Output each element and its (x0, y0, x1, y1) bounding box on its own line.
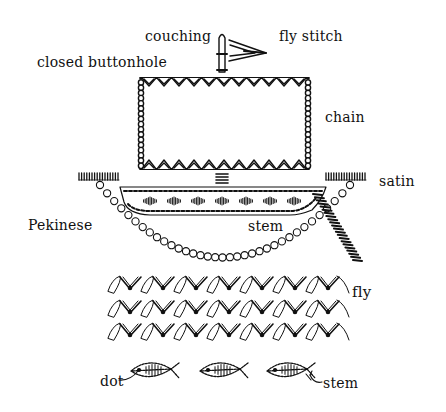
label-fly: fly (352, 285, 371, 300)
label-pekinese: Pekinese (28, 218, 92, 232)
sail-buttonhole-top (140, 78, 309, 86)
sail (138, 78, 310, 169)
embroidery-diagram: couching fly stitch closed buttonhole ch… (0, 0, 446, 412)
mast-base-satin (216, 174, 228, 183)
mast-couching (217, 35, 227, 73)
label-chain: chain (325, 110, 365, 124)
label-stem-fish: stem (323, 376, 358, 390)
label-fly-stitch: fly stitch (279, 29, 343, 43)
rope-post-left-satin (79, 173, 119, 180)
fish-group (131, 363, 315, 378)
waves-fly-stitch (108, 276, 349, 340)
sail-buttonhole-bottom (140, 160, 309, 169)
label-stem-hull: stem (248, 219, 283, 233)
hull (120, 187, 326, 215)
stem-arrowhead (306, 371, 312, 380)
flag-fly-stitch (229, 40, 266, 61)
label-couching: couching (145, 29, 211, 43)
label-closed-buttonhole: closed buttonhole (37, 55, 167, 69)
sail-chain-right (305, 80, 310, 169)
label-dot: dot (100, 374, 124, 388)
rope-post-right-satin (326, 173, 366, 180)
sail-chain-left (138, 80, 143, 169)
stem-pointer (310, 375, 322, 382)
label-satin: satin (379, 174, 415, 188)
